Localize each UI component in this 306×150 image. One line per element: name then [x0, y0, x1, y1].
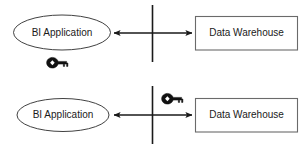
diagram-canvas: BI Application Data Warehouse BI Applica… [0, 0, 306, 150]
node-data-warehouse-top-label: Data Warehouse [209, 27, 284, 38]
key-icon [162, 93, 183, 104]
panel-bottom: BI Application Data Warehouse [17, 86, 298, 144]
node-data-warehouse-bottom-label: Data Warehouse [209, 109, 284, 120]
node-bi-application-bottom-label: BI Application [33, 109, 94, 120]
diagram-svg: BI Application Data Warehouse BI Applica… [0, 0, 306, 150]
panel-top: BI Application Data Warehouse [14, 5, 298, 68]
key-icon [47, 57, 68, 68]
node-bi-application-top-label: BI Application [32, 27, 93, 38]
